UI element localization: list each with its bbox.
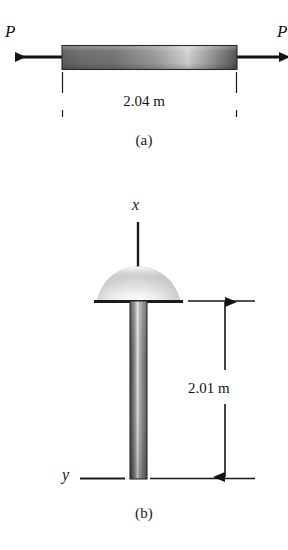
panel-b-group [80, 222, 255, 479]
shaft-body-shading [130, 301, 147, 479]
axis-label-y: y [62, 466, 69, 484]
cap-dome-fade [97, 267, 181, 302]
force-label-right: P [277, 22, 287, 42]
panel-caption-a: (a) [0, 132, 288, 149]
figure-canvas [0, 0, 288, 550]
dimension-label-a: 2.04 m [0, 93, 288, 110]
force-label-left: P [5, 22, 15, 42]
axis-label-x: x [132, 196, 139, 214]
panel-caption-b: (b) [0, 505, 288, 522]
bar-body-shading [62, 46, 237, 70]
dimension-label-b: 2.01 m [188, 380, 230, 397]
figure-page: P P 2.04 m (a) x y 2.01 m (b) [0, 0, 288, 550]
